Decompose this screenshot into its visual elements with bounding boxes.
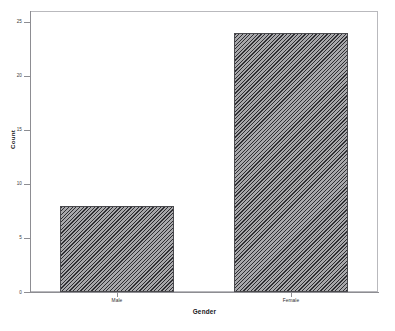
figure-caption <box>30 321 379 331</box>
y-tick-label-wrap: 10 <box>0 181 22 186</box>
bar-chart-figure: 0510152025 Count MaleFemale Gender <box>0 0 395 331</box>
y-tick-label: 0 <box>0 290 22 295</box>
y-tick-mark <box>24 292 30 293</box>
bar-female <box>234 33 349 292</box>
y-tick-label-wrap: 0 <box>0 290 22 295</box>
y-tick-label-wrap: 20 <box>0 73 22 78</box>
x-axis-line <box>30 292 379 293</box>
y-tick-mark <box>24 76 30 77</box>
x-category-label: Female <box>251 298 331 304</box>
y-tick-label: 20 <box>0 73 22 78</box>
y-tick-mark <box>24 238 30 239</box>
y-tick-label: 5 <box>0 235 22 240</box>
x-axis-title: Gender <box>30 308 379 315</box>
y-axis-line <box>30 11 31 293</box>
x-tick-mark <box>291 293 292 297</box>
x-tick-mark <box>117 293 118 297</box>
y-tick-mark <box>24 130 30 131</box>
x-category-label: Male <box>77 298 157 304</box>
y-tick-label: 25 <box>0 19 22 24</box>
y-tick-label-wrap: 5 <box>0 235 22 240</box>
y-tick-label: 10 <box>0 181 22 186</box>
y-axis-title: Count <box>9 120 16 160</box>
y-tick-mark <box>24 184 30 185</box>
y-tick-mark <box>24 22 30 23</box>
y-tick-label-wrap: 25 <box>0 19 22 24</box>
bar-male <box>60 206 175 292</box>
